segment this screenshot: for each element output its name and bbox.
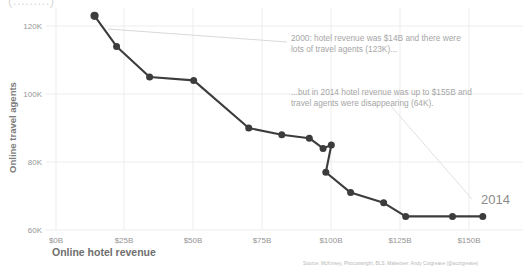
- source-note: Source: McKinsey, Phocuswright, BLS. Mak…: [303, 261, 478, 266]
- data-point: [320, 145, 327, 152]
- x-tick-label: $75B: [237, 236, 287, 245]
- data-point: [146, 74, 153, 81]
- x-tick-label: $150B: [444, 236, 494, 245]
- y-tick-label: 60K: [8, 226, 42, 235]
- data-point: [113, 43, 120, 50]
- data-point: [380, 199, 387, 206]
- x-tick-label: $0B: [31, 236, 81, 245]
- data-point: [90, 12, 98, 20]
- data-point: [402, 213, 409, 220]
- data-point: [479, 213, 486, 220]
- data-point: [347, 189, 354, 196]
- data-point: [322, 169, 329, 176]
- x-tick-label: $125B: [375, 236, 425, 245]
- data-point: [278, 131, 285, 138]
- data-point: [245, 125, 252, 132]
- y-axis-title: Online travel agents: [7, 68, 18, 188]
- x-tick-label: $50B: [168, 236, 218, 245]
- end-year-label: 2014: [481, 192, 510, 207]
- leader-line-first: [108, 29, 287, 42]
- annotation-first: 2000: hotel revenue was $14B and there w…: [291, 33, 461, 56]
- x-tick-label: $100B: [306, 236, 356, 245]
- x-tick-label: $25B: [99, 236, 149, 245]
- data-point: [306, 135, 313, 142]
- data-point: [328, 142, 335, 149]
- chart-container: (.........) 120K 100K 80K 60K: [0, 0, 523, 275]
- data-point: [190, 77, 197, 84]
- data-point: [449, 213, 456, 220]
- y-tick-label: 120K: [8, 22, 42, 31]
- annotation-second: ...but in 2014 hotel revenue was up to $…: [291, 87, 472, 110]
- leader-line-second: [390, 105, 472, 199]
- x-axis-title: Online hotel revenue: [52, 246, 156, 258]
